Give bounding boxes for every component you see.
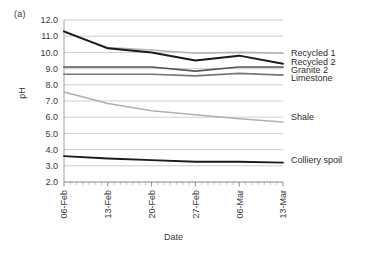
y-axis-tick-label: 11.0 (41, 31, 58, 41)
series-label: Limestone (291, 73, 333, 83)
x-axis-tick-label: 27-Feb (191, 190, 201, 219)
plot-area: 12.011.010.09.08.07.06.05.04.03.02.0 06-… (0, 0, 365, 253)
x-axis-tick-labels: 06-Feb13-Feb20-Feb27-Feb06-Mar13-Mar (59, 190, 288, 219)
x-axis-tick-label: 13-Mar (278, 190, 288, 219)
x-axis-ticks (64, 182, 283, 187)
y-axis-tick-label: 8.0 (45, 80, 58, 90)
y-axis-tick-label: 6.0 (45, 112, 58, 122)
chart-figure: (a) pH 12.011.010.09.08.07.06.05.04.03.0… (0, 0, 365, 253)
y-axis-tick-label: 3.0 (45, 161, 58, 171)
x-axis-tick-label: 06-Mar (235, 190, 245, 219)
data-series-line (64, 32, 283, 53)
series-labels-legend: Recycled 1Recycled 2Granite 2LimestoneSh… (291, 48, 342, 166)
y-axis-tick-label: 7.0 (45, 96, 58, 106)
y-axis-tick-label: 2.0 (45, 177, 58, 187)
y-axis-tick-label: 12.0 (40, 15, 58, 25)
data-series-line (64, 67, 283, 71)
series-label: Colliery spoil (291, 155, 342, 165)
data-series-line (64, 92, 283, 122)
x-axis-tick-label: 13-Feb (103, 190, 113, 219)
data-series-line (64, 73, 283, 75)
data-series-line (64, 156, 283, 162)
y-axis-tick-label: 10.0 (40, 48, 58, 58)
y-axis-tick-label: 5.0 (45, 129, 58, 139)
series-label: Shale (291, 112, 314, 122)
x-axis-title: Date (64, 232, 283, 242)
y-axis-tick-label: 4.0 (45, 145, 58, 155)
y-axis-tick-label: 9.0 (45, 64, 58, 74)
y-axis-tick-labels: 12.011.010.09.08.07.06.05.04.03.02.0 (40, 15, 58, 187)
x-axis-tick-label: 06-Feb (59, 190, 69, 219)
data-series-lines (64, 31, 283, 162)
x-axis-tick-label: 20-Feb (147, 190, 157, 219)
